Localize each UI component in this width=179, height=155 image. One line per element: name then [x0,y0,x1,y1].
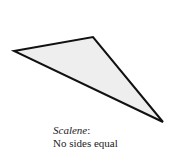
scalene-triangle [14,37,163,122]
caption-term: Scalene [53,124,87,136]
caption-description: No sides equal [53,137,118,150]
caption-title: Scalene: [53,124,118,137]
caption: Scalene: No sides equal [53,124,118,150]
caption-colon: : [87,124,90,136]
